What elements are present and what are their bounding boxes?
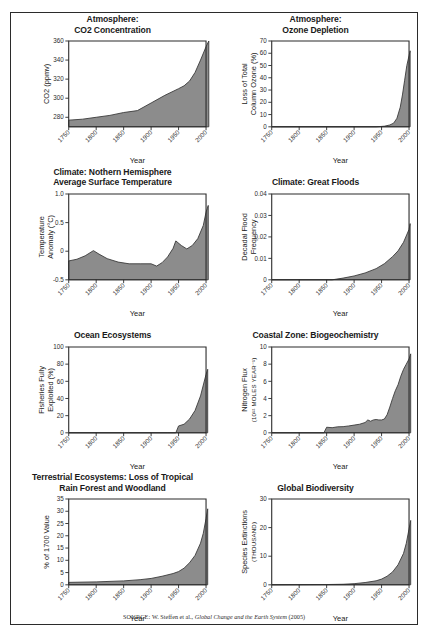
svg-text:1850: 1850: [111, 586, 126, 601]
plot-ozone: 010203040506070175018001850190019502000Y…: [214, 35, 417, 166]
svg-text:1950: 1950: [369, 586, 384, 601]
svg-text:Year: Year: [130, 308, 146, 317]
panel-title-floods: Climate: Great Floods: [214, 166, 417, 188]
svg-text:1800: 1800: [84, 434, 99, 449]
panel-title-biodiversity: Global Biodiversity: [214, 471, 417, 493]
panel-rainforest: Terrestrial Ecosystems: Loss of Tropical…: [11, 471, 214, 624]
svg-text:0: 0: [263, 276, 267, 283]
svg-text:1800: 1800: [84, 586, 99, 601]
svg-text:20: 20: [260, 98, 267, 105]
svg-text:CO2 (ppmv): CO2 (ppmv): [42, 64, 51, 104]
svg-text:2000: 2000: [193, 281, 208, 296]
panel-co2: Atmosphere: CO2 Concentration 2803003203…: [11, 13, 214, 166]
source-authors: W. Steffen et al.,: [150, 613, 194, 620]
plot-temperature: -0.500.51.0175018001850190019502000YearT…: [11, 188, 214, 319]
svg-text:35: 35: [57, 495, 64, 502]
svg-text:Year: Year: [333, 461, 349, 470]
svg-text:1900: 1900: [139, 128, 154, 143]
source-year: (2005): [287, 613, 305, 620]
svg-text:5: 5: [60, 569, 64, 576]
svg-text:(10¹² MOLES YEAR⁻¹): (10¹² MOLES YEAR⁻¹): [251, 357, 257, 422]
panel-title-co2: Atmosphere: CO2 Concentration: [11, 13, 214, 35]
svg-text:1800: 1800: [287, 434, 302, 449]
svg-text:0: 0: [263, 581, 267, 588]
plot-fisheries: 020406080100175018001850190019502000Year…: [11, 341, 214, 472]
svg-text:360: 360: [53, 37, 64, 44]
svg-text:280: 280: [53, 113, 64, 120]
svg-text:1750: 1750: [56, 586, 71, 601]
svg-text:1850: 1850: [314, 434, 329, 449]
svg-text:2000: 2000: [193, 128, 208, 143]
plot-rainforest: 05101520253035175018001850190019502000Ye…: [11, 493, 214, 624]
svg-text:1950: 1950: [166, 586, 181, 601]
panel-title-line-2: Ozone Depletion: [282, 25, 348, 35]
svg-text:2000: 2000: [396, 434, 411, 449]
svg-text:1750: 1750: [259, 434, 274, 449]
panel-title-line-1: Atmosphere:: [290, 14, 342, 24]
svg-text:4: 4: [263, 394, 267, 401]
svg-text:30: 30: [260, 86, 267, 93]
panel-title-line-2: CO2 Concentration: [74, 25, 151, 35]
panel-nitrogen: Coastal Zone: Biogeochemistry 0246810175…: [214, 319, 417, 472]
svg-text:1900: 1900: [139, 434, 154, 449]
svg-text:1850: 1850: [111, 128, 126, 143]
svg-text:20: 20: [57, 411, 64, 418]
svg-text:2000: 2000: [396, 281, 411, 296]
svg-text:1900: 1900: [342, 281, 357, 296]
panel-title-line-1: Ocean Ecosystems: [74, 330, 151, 340]
svg-text:1750: 1750: [259, 586, 274, 601]
plot-co2: 280300320340360175018001850190019502000Y…: [11, 35, 214, 166]
svg-text:Temperature: Temperature: [37, 216, 46, 257]
panel-title-line-1: Climate: Nothern Hemisphere: [53, 167, 171, 177]
svg-text:1900: 1900: [139, 586, 154, 601]
svg-text:60: 60: [260, 49, 267, 56]
svg-text:2000: 2000: [396, 128, 411, 143]
svg-text:1800: 1800: [84, 128, 99, 143]
svg-text:70: 70: [260, 37, 267, 44]
panel-title-line-1: Global Biodiversity: [277, 483, 353, 493]
panel-title-line-1: Coastal Zone: Biogeochemistry: [252, 330, 378, 340]
svg-text:2: 2: [263, 411, 267, 418]
svg-text:1900: 1900: [139, 281, 154, 296]
svg-text:2000: 2000: [193, 586, 208, 601]
panel-title-line-1: Atmosphere:: [87, 14, 139, 24]
svg-text:50: 50: [260, 62, 267, 69]
svg-text:Year: Year: [333, 156, 349, 165]
svg-text:1900: 1900: [342, 128, 357, 143]
svg-text:Fisheries Fully: Fisheries Fully: [37, 365, 46, 413]
svg-text:1950: 1950: [166, 281, 181, 296]
source-prefix: SOURCE:: [123, 613, 151, 620]
svg-text:20: 20: [260, 524, 267, 531]
svg-text:10: 10: [260, 553, 267, 560]
plot-biodiversity: 0102030175018001850190019502000YearSpeci…: [214, 493, 417, 624]
svg-text:25: 25: [57, 520, 64, 527]
panel-grid: Atmosphere: CO2 Concentration 2803003203…: [11, 13, 417, 624]
svg-text:0.01: 0.01: [255, 254, 268, 261]
svg-text:6: 6: [263, 377, 267, 384]
svg-text:1750: 1750: [259, 128, 274, 143]
svg-text:10: 10: [260, 343, 267, 350]
svg-text:1750: 1750: [56, 281, 71, 296]
svg-text:40: 40: [260, 74, 267, 81]
svg-text:40: 40: [57, 394, 64, 401]
svg-text:Year: Year: [130, 156, 146, 165]
svg-text:Nitrogen Flux: Nitrogen Flux: [240, 367, 249, 411]
svg-text:Year: Year: [130, 461, 146, 470]
svg-text:1.0: 1.0: [55, 190, 64, 197]
panel-title-rainforest: Terrestrial Ecosystems: Loss of Tropical…: [11, 471, 214, 493]
svg-text:340: 340: [53, 56, 64, 63]
svg-text:0: 0: [263, 123, 267, 130]
svg-text:1750: 1750: [259, 281, 274, 296]
source-title: Global Change and the Earth System: [195, 613, 287, 620]
panel-fisheries: Ocean Ecosystems 02040608010017501800185…: [11, 319, 214, 472]
svg-text:1800: 1800: [287, 586, 302, 601]
svg-text:1850: 1850: [314, 128, 329, 143]
panel-floods: Climate: Great Floods 00.010.020.030.041…: [214, 166, 417, 319]
svg-text:Frequency: Frequency: [249, 219, 258, 254]
svg-text:60: 60: [57, 377, 64, 384]
svg-text:1950: 1950: [369, 281, 384, 296]
panel-title-line-1: Terrestrial Ecosystems: Loss of Tropical: [32, 472, 193, 482]
figure-frame: Atmosphere: CO2 Concentration 2803003203…: [10, 12, 418, 625]
panel-title-temperature: Climate: Nothern Hemisphere Average Surf…: [11, 166, 214, 188]
svg-text:1800: 1800: [84, 281, 99, 296]
